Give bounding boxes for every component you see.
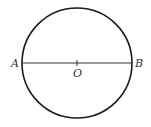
circle-diagram: A O B — [0, 0, 151, 127]
point-label-o: O — [73, 67, 82, 80]
point-label-a: A — [10, 57, 19, 70]
point-label-b: B — [134, 57, 143, 70]
